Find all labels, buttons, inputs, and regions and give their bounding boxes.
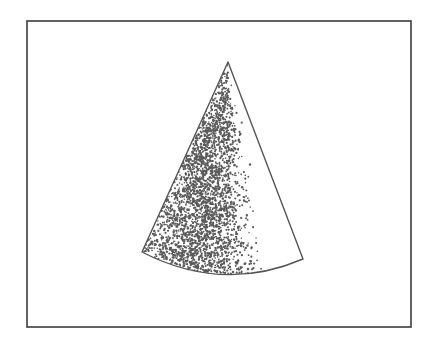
stipple-dot [173, 256, 175, 258]
stipple-dot [188, 160, 190, 162]
stipple-dot [189, 171, 191, 173]
stipple-dot [232, 161, 234, 163]
stipple-dot [221, 195, 223, 197]
stipple-dot [170, 214, 172, 216]
stipple-dot [236, 192, 238, 194]
stipple-dot [200, 143, 202, 145]
stipple-dot [221, 97, 222, 98]
stipple-dot [216, 169, 218, 171]
stipple-dot [209, 113, 210, 114]
stipple-dot [220, 126, 222, 128]
stipple-dot [206, 271, 208, 273]
stipple-dot [202, 167, 204, 169]
stipple-dot [243, 196, 245, 198]
stipple-dot [227, 71, 229, 73]
stipple-dot [153, 247, 155, 249]
stipple-dot [197, 195, 199, 197]
stipple-dot [215, 93, 217, 95]
stipple-dot [181, 176, 183, 178]
stipple-dot [167, 230, 169, 232]
stipple-dot [221, 135, 223, 137]
stipple-dot [225, 139, 227, 141]
stipple-dot [214, 158, 216, 160]
stipple-dot [222, 96, 224, 98]
stipple-dot [218, 162, 220, 164]
stipple-dot [185, 250, 187, 252]
stipple-dot [235, 175, 237, 177]
stipple-dot [154, 244, 156, 246]
stipple-dot [239, 251, 241, 253]
stipple-dot [187, 239, 189, 241]
stipple-dot [180, 228, 182, 230]
stipple-dot [216, 191, 217, 192]
stipple-dot [167, 199, 169, 201]
stipple-dot [224, 76, 225, 77]
stipple-dot [210, 194, 211, 195]
stipple-dot [175, 223, 176, 224]
stipple-dot [190, 239, 192, 241]
stipple-dot [239, 134, 241, 136]
stipple-dot [222, 116, 225, 119]
stipple-dot [228, 157, 230, 159]
stipple-dot [193, 191, 195, 193]
stipple-dot [200, 132, 202, 134]
stipple-dot [236, 204, 238, 206]
stipple-dot [226, 213, 228, 215]
stipple-dot [176, 256, 178, 258]
stipple-dot [185, 239, 187, 241]
stipple-dot [208, 147, 210, 149]
stipple-dot [186, 227, 188, 229]
stipple-dot [234, 248, 235, 249]
stipple-dot [174, 224, 176, 226]
stipple-dot [206, 183, 207, 184]
stipple-dot [226, 154, 228, 156]
stipple-dot [189, 250, 191, 252]
stipple-dot [223, 258, 225, 260]
stipple-dot [157, 230, 159, 232]
stipple-dot [198, 243, 200, 245]
stipple-dot [177, 237, 179, 239]
stipple-dot [226, 242, 228, 244]
stipple-dot [162, 243, 164, 245]
stipple-dot [204, 163, 206, 165]
stipple-dot [238, 172, 240, 174]
stipple-dot [203, 133, 205, 135]
stipple-dot [209, 233, 211, 235]
stipple-dot [194, 193, 195, 194]
stipple-dot [222, 241, 224, 243]
stipple-dot [187, 231, 189, 233]
stipple-dot [172, 242, 173, 243]
stipple-dot [204, 162, 205, 163]
stipple-dot [159, 223, 161, 225]
stipple-dot [221, 175, 223, 177]
stipple-dot [184, 211, 186, 213]
stipple-dot [218, 102, 220, 104]
stipple-dot [209, 176, 211, 178]
stipple-dot [180, 214, 182, 216]
stipple-dot [183, 220, 185, 222]
stipple-dot [192, 166, 194, 168]
stipple-dot [227, 175, 229, 177]
stipple-dot [234, 215, 236, 217]
stipple-dot [225, 190, 227, 192]
stipple-dot [196, 264, 198, 266]
stipple-dot [145, 248, 147, 250]
stipple-dot [205, 146, 206, 147]
stipple-dot [151, 249, 153, 251]
stipple-dot [186, 200, 188, 202]
stipple-dot [221, 83, 223, 85]
stipple-dot [204, 263, 206, 265]
stipple-dot [226, 203, 228, 205]
stipple-dot [202, 237, 204, 239]
stipple-dot [193, 171, 195, 173]
stipple-dot [227, 126, 229, 128]
stipple-dot [217, 193, 219, 195]
stipple-dot [166, 248, 168, 250]
stipple-dot [231, 209, 232, 210]
stipple-dot [214, 264, 216, 266]
stipple-dot [211, 144, 213, 146]
stipple-dot [224, 245, 226, 247]
stipple-dot [199, 249, 201, 251]
stipple-dot [156, 240, 158, 242]
stipple-dot [190, 263, 192, 265]
